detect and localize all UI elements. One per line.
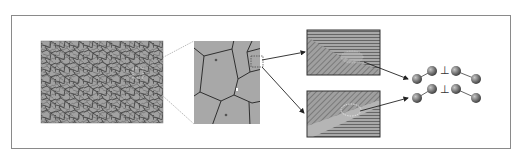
diagram-canvas: ⊥ ⊥ (0, 0, 520, 158)
atom (471, 74, 481, 84)
micrograph-panel (41, 41, 163, 123)
atom (451, 84, 461, 94)
atom (412, 74, 422, 84)
dislocation-panel: ⊥ ⊥ (412, 64, 481, 103)
dislocation-symbol-bottom: ⊥ (440, 83, 450, 96)
grain-zoom-panel (194, 35, 263, 126)
atom (427, 84, 437, 94)
dislocation-symbol-top: ⊥ (440, 64, 450, 77)
atom (471, 93, 481, 103)
atom (427, 66, 437, 76)
arrows-to-boundaries (262, 52, 305, 113)
boundary-top-panel (307, 30, 380, 75)
atom (412, 93, 422, 103)
atom (451, 66, 461, 76)
boundary-bottom-panel (307, 91, 380, 137)
